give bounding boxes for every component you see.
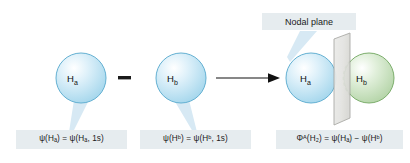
minus-operator-glyph — [118, 76, 131, 79]
orbital-sphere-hb-product — [344, 53, 394, 103]
nodal-plane-label: Nodal plane — [262, 13, 356, 30]
reaction-arrow — [216, 73, 280, 83]
orbital-sphere-ha-left — [56, 53, 106, 103]
atom-label-ha-product: Ha — [300, 73, 311, 86]
nodal-plane-surface — [334, 33, 350, 125]
equation-left: ψ(Hₐ) = ψ(Hₐ, 1s) — [16, 130, 127, 149]
figure-canvas: Nodal plane Ha Hb Ha Hb ψ(Hₐ) = ψ(Hₐ, 1s… — [0, 0, 410, 163]
subscript-b: b — [363, 79, 367, 86]
leader-middle-orbital — [174, 100, 197, 132]
subscript-b: b — [174, 79, 178, 86]
equation-product: Φᴬ(H₂) = ψ(Hₐ) − ψ(Hᵇ) — [276, 130, 403, 149]
atom-label-hb-middle: Hb — [167, 73, 178, 86]
atom-label-hb-product: Hb — [356, 73, 367, 86]
equation-middle: ψ(Hᵇ) = ψ(Hᵇ, 1s) — [140, 130, 251, 149]
orbital-sphere-hb-middle — [156, 53, 206, 103]
subscript-a: a — [307, 79, 311, 86]
leader-left-orbital — [69, 100, 89, 132]
subscript-a: a — [74, 79, 78, 86]
atom-label-ha-left: Ha — [67, 73, 78, 86]
